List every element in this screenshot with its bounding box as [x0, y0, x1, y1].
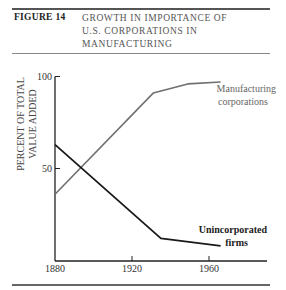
unincorporated-firms-line — [55, 145, 221, 246]
y-tick-label: 50 — [42, 163, 52, 174]
manufacturing-label-line-1: Manufacturing — [217, 83, 276, 94]
unincorporated-label-line-2: firms — [225, 237, 248, 248]
manufacturing-corporations-line — [55, 82, 221, 194]
unincorporated-label-line-1: Unincorporated — [199, 224, 268, 235]
bottom-rule — [12, 284, 270, 286]
series-lines — [55, 82, 221, 246]
y-axis-label: PERCENT OF TOTAL VALUE ADDED — [15, 77, 38, 171]
x-tick-label: 1880 — [45, 263, 65, 274]
series-labels: ManufacturingcorporationsUnincorporatedf… — [199, 83, 276, 248]
line-chart: PERCENT OF TOTAL VALUE ADDED 50100188019… — [0, 0, 286, 290]
y-axis-label-line-2: VALUE ADDED — [27, 89, 38, 159]
y-tick-label: 100 — [37, 71, 52, 82]
x-tick-label: 1920 — [122, 263, 142, 274]
y-axis-label-line-1: PERCENT OF TOTAL — [15, 77, 26, 171]
manufacturing-label-line-2: corporations — [218, 96, 268, 107]
x-tick-label: 1960 — [199, 263, 219, 274]
